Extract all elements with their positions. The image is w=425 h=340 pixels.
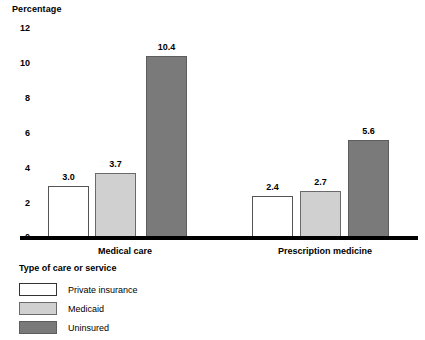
bar-private (252, 196, 293, 238)
bar-medicaid (95, 173, 136, 238)
legend-item-label: Private insurance (68, 285, 138, 295)
bar-value-label: 10.4 (146, 43, 187, 52)
legend-item-label: Uninsured (68, 323, 109, 333)
bar-uninsured (348, 140, 389, 238)
bar-value-label: 2.7 (300, 178, 341, 187)
bar-value-label: 3.0 (48, 173, 89, 182)
bar-value-label: 2.4 (252, 183, 293, 192)
bar-chart: Percentage 121086420 3.03.710.42.42.75.6… (0, 0, 425, 340)
legend-swatch-private (19, 283, 57, 296)
legend-swatch-medicaid (19, 302, 57, 315)
bar-medicaid (300, 191, 341, 238)
bar-private (48, 186, 89, 239)
bar-value-label: 5.6 (348, 127, 389, 136)
legend-title: Type of care or service (19, 263, 116, 273)
bar-value-label: 3.7 (95, 160, 136, 169)
bar-uninsured (146, 56, 187, 238)
legend-swatch-uninsured (19, 321, 57, 334)
x-axis-group-label: Medical care (55, 247, 195, 256)
x-axis-group-label: Prescription medicine (250, 247, 400, 256)
x-axis-line (20, 236, 418, 240)
legend-item-label: Medicaid (68, 304, 104, 314)
plot-area: 3.03.710.42.42.75.6 (0, 0, 425, 238)
